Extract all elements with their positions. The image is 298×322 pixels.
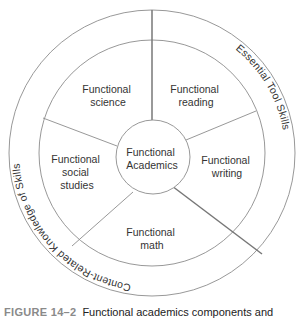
- label-line: social: [62, 166, 89, 178]
- label-line: Functional: [170, 83, 218, 95]
- section-science-label: Functional science: [82, 83, 133, 108]
- center-label-line: Academics: [126, 159, 177, 171]
- center-label: Functional Academics: [126, 146, 177, 171]
- label-line: writing: [211, 167, 243, 179]
- center-label-line: Functional: [126, 146, 174, 158]
- section-math-label: Functional math: [126, 226, 177, 251]
- divider-right: [186, 111, 256, 140]
- label-line: reading: [178, 96, 213, 108]
- section-writing-label: Functional writing: [201, 154, 252, 179]
- figure-caption: FIGURE 14–2Functional academics componen…: [4, 306, 273, 318]
- label-line: math: [140, 239, 164, 251]
- figure-number: FIGURE 14–2: [4, 306, 76, 318]
- label-line: Functional: [82, 83, 130, 95]
- divider-left: [43, 118, 117, 146]
- label-line: science: [90, 96, 126, 108]
- section-reading-label: Functional reading: [170, 83, 221, 108]
- label-line: Functional: [126, 226, 174, 238]
- label-line: Functional: [51, 153, 99, 165]
- section-social-studies-label: Functional social studies: [51, 153, 102, 191]
- caption-text: Functional academics components and: [82, 306, 273, 318]
- divider-bottom-left: [72, 192, 133, 246]
- label-line: studies: [60, 179, 93, 191]
- functional-academics-diagram: Functional Academics Functional science …: [0, 0, 298, 322]
- divider-bottom-right: [172, 186, 262, 254]
- label-line: Functional: [201, 154, 249, 166]
